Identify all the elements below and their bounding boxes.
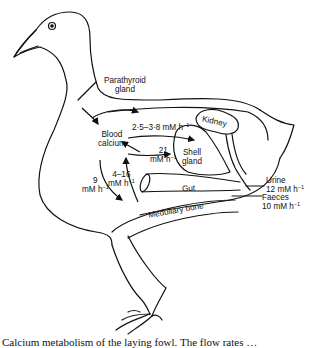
urine-label: Urine 12 mM h−1 xyxy=(266,176,304,194)
figure-caption: Calcium metabolism of the laying fowl. T… xyxy=(2,336,257,348)
kidney-flow-rate: 2·5–3·8 mM h−1 xyxy=(132,123,189,132)
faeces-label: Faeces 10 mM h−1 xyxy=(262,193,300,211)
medullary-exchange-rate: 4–16 mM h−1 xyxy=(108,170,135,188)
shell-gland-label: Shell gland xyxy=(182,148,202,166)
parathyroid-gland-label: Parathyroid gland xyxy=(104,76,146,94)
blood-calcium-label: Blood calcium xyxy=(98,130,126,148)
shell-gland-flow-rate: 21 mM h−1 xyxy=(150,146,177,164)
medullary-deposition-rate: 9 mM h−1 xyxy=(82,176,109,194)
gut-label: Gut xyxy=(182,184,196,194)
